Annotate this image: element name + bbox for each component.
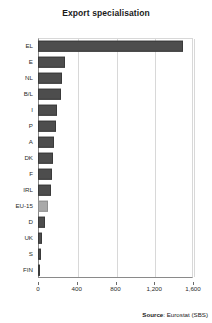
bar-row [38,182,193,198]
y-axis-label-p: P [29,123,35,129]
x-axis-label-0: 0 [36,286,39,292]
chart-title: Export specialisation [0,8,212,18]
y-axis-label-f: F [29,171,35,177]
bar-s [38,249,41,260]
y-axis-label-row: IRL [0,182,35,198]
y-axis-label-row: B/L [0,86,35,102]
source-value: Eurostat (SBS) [167,311,208,318]
bar-irl [38,185,51,196]
bar-series [38,38,193,278]
bar-row [38,38,193,54]
bar-row [38,150,193,166]
y-axis-label-d: D [29,219,35,225]
y-axis-label-row: S [0,246,35,262]
bar-nl [38,73,62,84]
bar-row [38,230,193,246]
y-axis-label-row: F [0,166,35,182]
bar-eu-15 [38,201,48,212]
y-axis-label-nl: NL [25,75,35,81]
bar-row [38,118,193,134]
y-axis-label-row: UK [0,230,35,246]
bar-d [38,217,45,228]
bar-p [38,121,56,132]
bar-i [38,105,57,116]
y-axis-label-row: P [0,118,35,134]
bar-row [38,86,193,102]
bar-row [38,214,193,230]
y-axis-label-row: DK [0,150,35,166]
y-axis-category-labels: ELENLB/LIPADKFIRLEU-15DUKSFIN [0,38,35,278]
bar-a [38,137,54,148]
bar-e [38,57,65,68]
bar-dk [38,153,53,164]
x-axis-label-1200: 1,200 [147,286,162,292]
source-note: Source: Eurostat (SBS) [142,311,208,318]
y-axis-label-row: EU-15 [0,198,35,214]
x-axis-label-1600: 1,600 [185,286,200,292]
y-axis-label-s: S [29,251,35,257]
y-axis-label-row: EL [0,38,35,54]
bar-fin [38,265,40,276]
bar-uk [38,233,42,244]
bar-row [38,246,193,262]
y-axis-label-row: E [0,54,35,70]
y-axis-label-row: I [0,102,35,118]
bar-row [38,54,193,70]
bar-row [38,166,193,182]
y-axis-label-eu-15: EU-15 [15,203,35,209]
y-axis-label-row: D [0,214,35,230]
y-axis-label-row: FIN [0,262,35,278]
source-label: Source [142,311,163,318]
bar-row [38,102,193,118]
bar-row [38,70,193,86]
bar-b-l [38,89,61,100]
y-axis-label-dk: DK [24,155,35,161]
y-axis-label-e: E [29,59,35,65]
bar-row [38,262,193,278]
y-axis-label-row: A [0,134,35,150]
x-axis-label-400: 400 [72,286,82,292]
y-axis-label-el: EL [25,43,35,49]
x-axis-tick-labels: 04008001,2001,600 [0,282,212,294]
gridline-1600 [194,39,195,277]
y-axis-label-uk: UK [24,235,35,241]
y-axis-label-i: I [31,107,35,113]
export-specialisation-chart: Export specialisation ELENLB/LIPADKFIRLE… [0,0,212,323]
y-axis-label-b-l: B/L [24,91,35,97]
y-axis-label-fin: FIN [23,267,35,273]
y-axis-label-a: A [29,139,35,145]
bar-row [38,134,193,150]
y-axis-label-irl: IRL [23,187,35,193]
bar-el [38,41,183,52]
bar-f [38,169,52,180]
y-axis-label-row: NL [0,70,35,86]
x-axis-label-800: 800 [110,286,120,292]
bar-row [38,198,193,214]
